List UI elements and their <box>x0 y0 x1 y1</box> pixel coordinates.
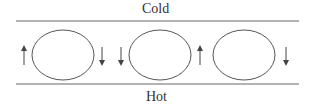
convection-cells-diagram <box>0 0 315 110</box>
convection-cell-1 <box>32 30 94 80</box>
convection-cell-2 <box>129 30 191 80</box>
convection-cell-3 <box>213 30 275 80</box>
